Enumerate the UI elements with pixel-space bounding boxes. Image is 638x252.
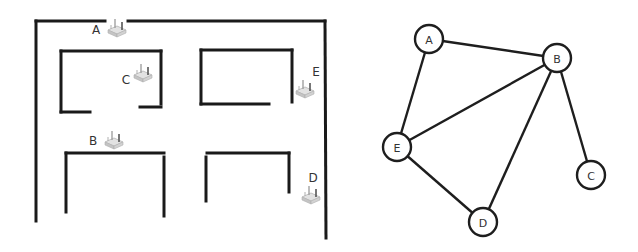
graph-node-b: B [543,44,571,72]
node-label: D [479,217,487,230]
router-c: C [122,64,152,87]
network-graph: ABECD [383,25,605,236]
router-b: B [89,131,123,149]
router-icon [105,131,123,149]
edge-e-b [397,58,557,147]
router-e: E [296,65,320,98]
router-label: D [308,171,317,185]
router-label: E [312,65,320,79]
floor-plan: ACBED [36,19,326,238]
edge-e-d [397,147,483,222]
outer-walls [36,21,326,238]
routers: ACBED [89,19,320,204]
router-icon [302,186,320,204]
node-label: C [587,170,595,183]
router-label: C [122,73,130,87]
outer-wall-right [325,21,326,238]
node-label: B [553,53,561,66]
room-top-right [201,50,292,104]
router-icon [108,19,126,37]
router-icon [296,80,314,98]
graph-node-e: E [383,133,411,161]
node-label: A [425,34,433,47]
edge-b-c [557,58,591,175]
graph-node-d: D [469,208,497,236]
room-bottom-left [66,153,164,216]
edge-a-b [429,39,557,58]
graph-node-c: C [577,161,605,189]
graph-node-a: A [415,25,443,53]
diagram-canvas: ACBED ABECD [0,0,638,252]
room-top-left [61,51,161,112]
node-label: E [394,142,401,155]
edge-b-d [483,58,557,222]
room-bottom-right [206,153,289,201]
router-icon [134,64,152,82]
graph-nodes: ABECD [383,25,605,236]
router-d: D [302,171,320,204]
router-label: A [92,23,101,37]
router-label: B [89,134,97,148]
